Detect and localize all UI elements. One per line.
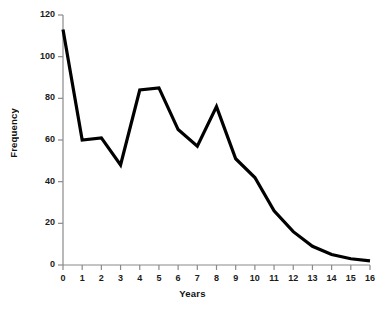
y-axis-tick-label: 20 <box>23 218 55 227</box>
y-axis-tick-label: 0 <box>23 260 55 269</box>
y-axis-tick-label: 120 <box>23 10 55 19</box>
y-axis-ticks <box>58 15 63 265</box>
chart-plot-area <box>0 0 385 313</box>
y-axis-title: Frequency <box>8 108 22 158</box>
chart-axes <box>63 15 370 265</box>
line-chart: 020406080100120 012345678910111213141516… <box>0 0 385 313</box>
x-axis-ticks <box>63 265 370 270</box>
x-axis-tick-label: 16 <box>356 274 384 283</box>
y-axis-tick-label: 100 <box>23 52 55 61</box>
y-axis-tick-label: 40 <box>23 177 55 186</box>
y-axis-tick-label: 80 <box>23 93 55 102</box>
y-axis-tick-label: 60 <box>23 135 55 144</box>
x-axis-title: Years <box>0 288 385 299</box>
frequency-line-series <box>63 30 370 261</box>
